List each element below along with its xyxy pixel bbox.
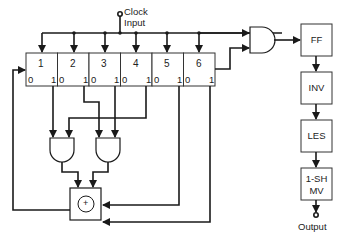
cell-5-number: 5 <box>164 59 170 69</box>
diagram-canvas <box>0 0 347 239</box>
output-label: Output <box>298 222 327 232</box>
cell-6-number: 6 <box>196 59 202 69</box>
clock-bus <box>42 12 282 52</box>
cell-2-number: 2 <box>70 59 76 69</box>
clock-input-terminal <box>118 12 122 16</box>
cell-4-out1: 1 <box>146 75 151 85</box>
cell-1-out0: 0 <box>28 75 33 85</box>
les-label: LES <box>301 131 332 141</box>
cell-1-out1: 1 <box>51 75 56 85</box>
and-gate-1 <box>50 138 78 187</box>
inv-label: INV <box>301 83 332 93</box>
ff-label: FF <box>301 35 332 45</box>
clock-label-line2: Input <box>124 18 145 28</box>
cell-6-out0: 0 <box>185 75 190 85</box>
cell-5-out0: 0 <box>154 75 159 85</box>
cell-3-number: 3 <box>101 59 107 69</box>
cell-6-out1: 1 <box>209 75 214 85</box>
one-shot-label-line1: 1-SH <box>301 174 332 184</box>
cell-2-out0: 0 <box>59 75 64 85</box>
cell-3-out1: 1 <box>114 75 119 85</box>
output-terminal <box>314 213 318 217</box>
and-gate-output <box>250 27 300 53</box>
one-shot-label-line2: MV <box>301 186 332 196</box>
xor-symbol: + <box>83 199 88 208</box>
cell-4-number: 4 <box>133 59 139 69</box>
and-gate-2 <box>93 138 120 187</box>
cell-3-out0: 0 <box>91 75 96 85</box>
cell-2-out1: 1 <box>83 75 88 85</box>
cell-1-number: 1 <box>38 59 44 69</box>
clock-label-line1: Clock <box>124 7 148 17</box>
cell-5-out1: 1 <box>177 75 182 85</box>
cell-4-out0: 0 <box>122 75 127 85</box>
